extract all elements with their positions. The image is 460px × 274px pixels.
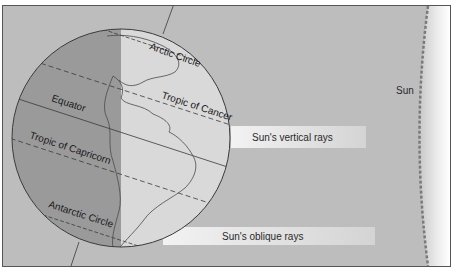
label-vertical-rays: Sun's vertical rays <box>252 132 333 143</box>
sun <box>420 6 451 266</box>
earth-axis-north <box>163 6 175 34</box>
diagram-canvas: Arctic Circle Tropic of Cancer Equator T… <box>3 6 450 266</box>
earth-axis-south <box>71 242 79 266</box>
diagram-frame: Arctic Circle Tropic of Cancer Equator T… <box>2 5 451 267</box>
label-oblique-rays: Sun's oblique rays <box>222 231 303 242</box>
label-sun: Sun <box>396 85 414 96</box>
